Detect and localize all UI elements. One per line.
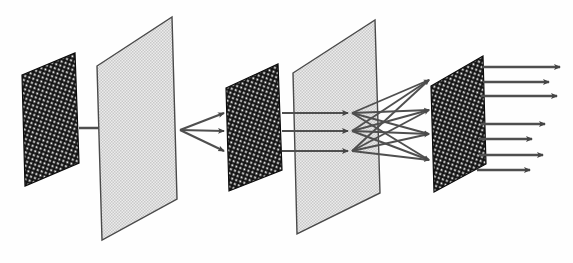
layer-plane-5-output-plane <box>431 56 486 192</box>
layer-plane-2-second-plane <box>97 17 177 240</box>
arrow-second-to-third-2 <box>180 130 224 151</box>
network-architecture-diagram <box>0 0 573 263</box>
layer-plane-1-input-plane <box>22 53 79 186</box>
diagram-canvas <box>0 0 573 263</box>
arrow-second-to-third-0 <box>180 113 224 130</box>
layer-plane-3-third-plane <box>226 64 282 191</box>
arrow-second-to-third-1 <box>180 130 224 131</box>
